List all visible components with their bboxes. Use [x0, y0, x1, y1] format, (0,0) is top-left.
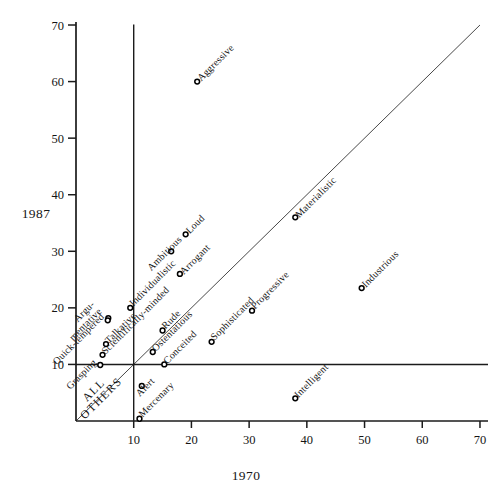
x-tick-label-40: 40	[301, 433, 314, 447]
x-tick-label-50: 50	[358, 433, 371, 447]
point-label-materialistic: Materialistic	[293, 174, 339, 220]
point-label-industrious: Industrious	[359, 248, 400, 289]
x-axis-title: 1970	[224, 468, 268, 484]
y-tick-label-60: 60	[52, 75, 65, 89]
y-axis-title: 1987	[16, 206, 56, 222]
identity-diagonal-line	[76, 25, 480, 421]
scatter-figure: 1020304050607010203040506070AggressiveMa…	[0, 0, 501, 495]
point-label-arrogant: Arrogant	[178, 242, 212, 276]
x-tick-label-60: 60	[416, 433, 429, 447]
y-tick-label-20: 20	[52, 301, 65, 315]
x-tick-label-10: 10	[127, 433, 140, 447]
y-tick-label-40: 40	[52, 188, 65, 202]
y-tick-label-30: 30	[52, 245, 65, 259]
y-tick-label-70: 70	[52, 19, 65, 33]
point-label-aggressive: Aggressive	[195, 42, 236, 83]
x-tick-label-70: 70	[474, 433, 487, 447]
scatter-plot-canvas: 1020304050607010203040506070AggressiveMa…	[0, 0, 501, 495]
point-label-progressive: Progressive	[249, 269, 292, 312]
point-label-intelligent: Intelligent	[292, 361, 330, 399]
data-point-grasping	[98, 363, 103, 368]
y-tick-label-50: 50	[52, 132, 65, 146]
point-label-sophisticated: Sophisticated	[208, 294, 256, 342]
x-tick-label-30: 30	[243, 433, 256, 447]
x-tick-label-20: 20	[185, 433, 198, 447]
point-label-loud: Loud	[183, 212, 206, 235]
